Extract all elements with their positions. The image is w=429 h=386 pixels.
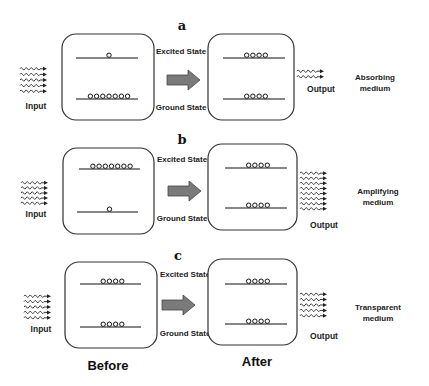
wavy-arrow-icon <box>300 308 327 312</box>
excited-state-label: Excited State <box>160 270 211 279</box>
right-arrow-icon <box>167 70 200 90</box>
after-box <box>208 144 297 230</box>
atom-icon <box>265 319 269 323</box>
after-column-label: After <box>242 354 272 369</box>
atom-icon <box>245 94 249 98</box>
atom-icon <box>91 164 95 168</box>
atom-icon <box>259 279 263 283</box>
output-waves <box>297 69 324 79</box>
atom-icon <box>263 94 267 98</box>
output-waves <box>300 171 327 211</box>
panel-letter: b <box>177 132 186 147</box>
atom-icon <box>101 322 105 326</box>
wavy-arrow-icon <box>300 314 327 318</box>
atom-icon <box>253 319 257 323</box>
right-arrow-icon <box>168 181 201 201</box>
wavy-arrow-icon <box>24 294 51 298</box>
medium-label-line2: medium <box>363 314 394 323</box>
atom-icon <box>263 53 267 57</box>
atom-icon <box>245 53 249 57</box>
ground-atoms-before <box>107 207 111 211</box>
wavy-arrow-icon <box>300 192 327 196</box>
atom-icon <box>116 164 120 168</box>
atom-icon <box>107 53 111 57</box>
wavy-arrow-icon <box>300 176 327 180</box>
right-arrow-icon <box>162 295 195 315</box>
wavy-arrow-icon <box>300 181 327 185</box>
atom-icon <box>101 279 105 283</box>
output-label: Output <box>310 220 338 230</box>
after-box <box>208 34 294 120</box>
input-waves <box>21 181 48 205</box>
excited-atoms-before <box>107 53 111 57</box>
wavy-arrow-icon <box>300 292 327 296</box>
ground-atoms-before <box>88 94 130 98</box>
atom-icon <box>247 203 251 207</box>
wavy-arrow-icon <box>21 201 48 205</box>
atom-icon <box>122 164 126 168</box>
wavy-arrow-icon <box>300 186 327 190</box>
atom-icon <box>88 94 92 98</box>
atom-icon <box>265 279 269 283</box>
atom-icon <box>94 94 98 98</box>
atom-icon <box>107 207 111 211</box>
atom-icon <box>113 322 117 326</box>
before-box <box>62 34 154 120</box>
medium-label-line2: medium <box>363 198 394 207</box>
wavy-arrow-icon <box>20 78 47 82</box>
atom-icon <box>265 163 269 167</box>
atom-icon <box>107 279 111 283</box>
atom-icon <box>113 279 117 283</box>
input-waves <box>24 294 51 320</box>
panel-letter: c <box>174 248 182 263</box>
ground-state-label: Ground State <box>157 214 208 223</box>
atom-icon <box>253 279 257 283</box>
wavy-arrow-icon <box>20 72 47 76</box>
wavy-arrow-icon <box>297 69 324 73</box>
wavy-arrow-icon <box>21 186 48 190</box>
atom-icon <box>247 279 251 283</box>
atom-icon <box>101 94 105 98</box>
wavy-arrow-icon <box>300 202 327 206</box>
output-waves <box>300 292 327 318</box>
atom-icon <box>119 94 123 98</box>
wavy-arrow-icon <box>297 75 324 79</box>
medium-label-line1: Absorbing <box>355 73 395 82</box>
output-label: Output <box>307 84 335 94</box>
wavy-arrow-icon <box>300 197 327 201</box>
wavy-arrow-icon <box>20 67 47 71</box>
wavy-arrow-icon <box>21 196 48 200</box>
medium-label-line2: medium <box>360 84 391 93</box>
medium-label-line1: Transparent <box>355 303 401 312</box>
panel-a: a Input Excited State Ground State Outpu… <box>20 18 395 120</box>
wavy-arrow-icon <box>21 181 48 185</box>
atom-icon <box>253 203 257 207</box>
wavy-arrow-icon <box>20 89 47 93</box>
ground-state-label: Ground State <box>160 329 211 338</box>
atom-icon <box>128 164 132 168</box>
input-waves <box>20 67 47 93</box>
excited-state-label: Excited State <box>157 155 208 164</box>
wavy-arrow-icon <box>24 305 51 309</box>
atom-icon <box>103 164 107 168</box>
atom-icon <box>259 203 263 207</box>
input-label: Input <box>26 209 47 219</box>
input-label: Input <box>31 324 52 334</box>
after-box <box>208 259 297 345</box>
ground-state-label: Ground State <box>156 103 207 112</box>
before-column-label: Before <box>87 358 128 373</box>
atom-icon <box>107 322 111 326</box>
wavy-arrow-icon <box>24 316 51 320</box>
atom-icon <box>253 163 257 167</box>
panel-b: b Input Excited State Ground State Outpu… <box>21 132 399 234</box>
atom-icon <box>265 203 269 207</box>
before-box <box>65 262 157 348</box>
wavy-arrow-icon <box>300 207 327 211</box>
laser-medium-diagram: a Input Excited State Ground State Outpu… <box>0 0 429 386</box>
input-label: Input <box>26 101 47 111</box>
atom-icon <box>125 94 129 98</box>
wavy-arrow-icon <box>300 298 327 302</box>
atom-icon <box>251 94 255 98</box>
medium-label-line1: Amplifying <box>357 187 398 196</box>
wavy-arrow-icon <box>24 300 51 304</box>
